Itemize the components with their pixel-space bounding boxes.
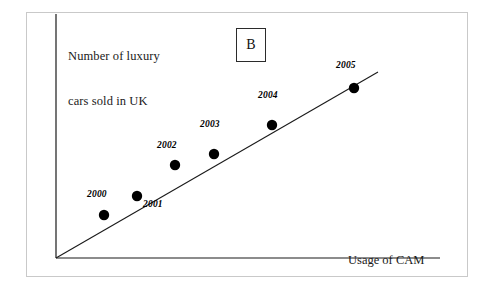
chart-title: Number of luxury cars sold in UK	[68, 19, 160, 124]
panel-letter-box: B	[236, 28, 266, 62]
chart-title-line-2: cars sold in UK	[68, 94, 160, 109]
x-axis-label: Usage of CAM	[348, 253, 424, 268]
data-point-label-2003: 2003	[200, 119, 220, 129]
data-point-2002[interactable]	[170, 160, 180, 170]
data-point-label-2005: 2005	[336, 60, 356, 70]
data-point-label-2002: 2002	[157, 140, 177, 150]
data-point-2003[interactable]	[209, 149, 219, 159]
data-point-2000[interactable]	[99, 210, 109, 220]
data-point-2004[interactable]	[267, 120, 277, 130]
data-point-label-2004: 2004	[258, 90, 278, 100]
data-point-2001[interactable]	[132, 191, 142, 201]
data-point-label-2000: 2000	[87, 189, 107, 199]
panel-letter: B	[246, 38, 255, 52]
chart-title-line-1: Number of luxury	[68, 49, 160, 64]
data-point-2005[interactable]	[349, 83, 359, 93]
data-point-label-2001: 2001	[143, 199, 163, 209]
